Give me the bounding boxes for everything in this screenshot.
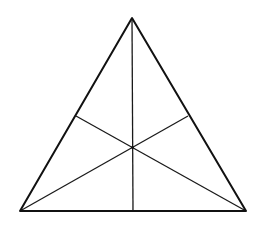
medians [20,18,246,211]
centroid-point [131,146,134,149]
median-from-bottom-left [20,116,188,211]
median-from-bottom-right [76,116,246,211]
triangle-medians-diagram [0,0,261,228]
median-from-apex [132,18,133,211]
